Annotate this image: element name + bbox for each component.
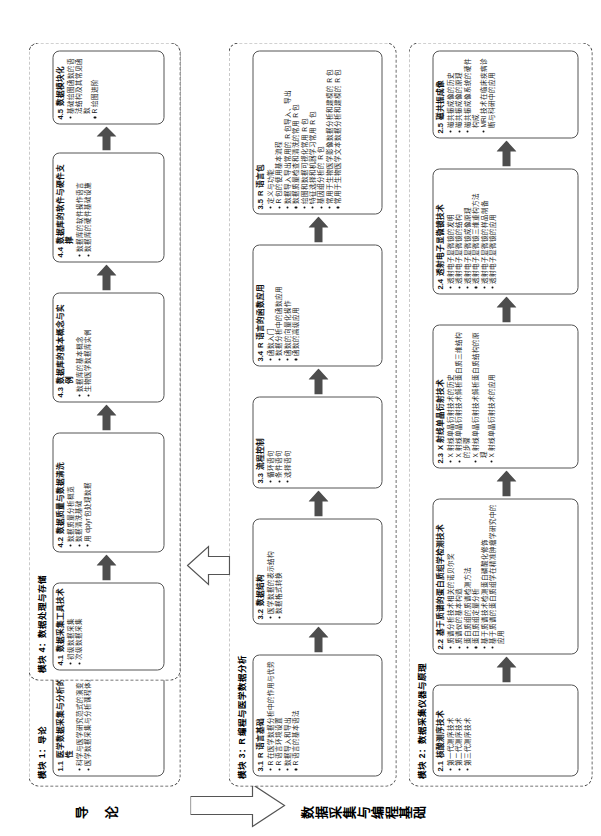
- node-2-5[interactable]: 2.5 磁共振成像 磁共振成像的历史 磁共振成像的原理 磁共振成像系统的硬件构成…: [432, 50, 578, 138]
- list-item: X 射线单晶衍射技术的应用: [487, 329, 495, 463]
- node-2-3-bullets: X 射线单晶衍射技术的历史 X 射线单晶衍射技术解析蛋白质三维结构的步骤 X 射…: [446, 329, 495, 463]
- node-3-5[interactable]: 3.5 R 语言包 定义与功能 R 包的使用基本流程 数据导入导出常用的 R 包…: [252, 50, 382, 214]
- arrow-4-3-to-4-4: [96, 264, 116, 290]
- node-3-3-number: 3.3: [256, 472, 265, 483]
- list-item: 基础绘图函数的语法结构及其常见函数: [66, 55, 90, 119]
- arrow-3-1-to-3-2: [308, 626, 328, 652]
- list-item: 循环语句: [266, 401, 274, 483]
- list-item: 数据质量检查和清洗的常用 R 包: [291, 55, 299, 209]
- node-2-5-head: 2.5 磁共振成像: [436, 55, 445, 133]
- list-item: 数据库的基本概念: [75, 297, 83, 397]
- list-item: 第二代测序技术: [454, 689, 462, 771]
- node-3-2-title: 数据结构: [256, 523, 265, 605]
- node-3-1-title: R 语言基础: [256, 659, 265, 757]
- node-3-3-title: 流程控制: [256, 401, 265, 469]
- node-4-4-number: 4.4: [56, 246, 65, 257]
- node-2-1-number: 2.1: [436, 760, 445, 771]
- list-item: 透射电子显微镜的样品制备: [480, 173, 488, 289]
- node-2-5-title: 磁共振成像: [436, 55, 445, 119]
- list-item: 生物医学数据库实例: [83, 297, 91, 397]
- list-item: 用 dplyr 包处理数据: [83, 437, 91, 547]
- list-item: 次级数据采集: [74, 587, 82, 665]
- list-item: 函数入门: [266, 249, 274, 361]
- list-item: 磁共振成像系统的硬件构成: [463, 55, 479, 133]
- module-2-title: 模块 2：数据采集仪器与原理: [414, 663, 426, 778]
- arrow-3-3-to-3-4: [308, 368, 328, 394]
- list-item: 磁共振成像的历史: [446, 55, 454, 133]
- node-4-2[interactable]: 4.2 数据质量与数据清洗 数据质量分析概览 数据清洗基础 用 dplyr 包处…: [52, 432, 164, 552]
- node-4-5[interactable]: 4.5 数据模块化 基础绘图函数的语法结构及其常见函数 R 绘图进阶: [52, 50, 164, 124]
- list-item: 透射电子显微镜的应用: [488, 173, 496, 289]
- node-3-4-title: R 语言的函数应用: [256, 249, 265, 347]
- list-item: 数据分析中的函数应用: [274, 249, 282, 361]
- list-item: MRI 技术在临床疾病诊断与科研中的应用: [479, 55, 495, 133]
- arrow-4-4-to-4-5: [96, 126, 116, 150]
- list-item: 数据清洗基础: [74, 437, 82, 547]
- node-3-4-bullets: 函数入门 数据分析中的函数应用 函数的向量化操作 函数的高级应用: [266, 249, 299, 361]
- node-4-4[interactable]: 4.4 数据库的软件与硬件支撑 数据库的软件操作语言 数据库的硬件基础设施: [52, 152, 164, 262]
- list-item: 函数的向量化操作: [283, 249, 291, 361]
- node-3-1[interactable]: 3.1 R 语言基础 R 在医学数据分析中的作用与优势 R 语言环境设置 数据导…: [252, 654, 382, 776]
- list-item: 质谱仪的基本构造: [454, 503, 462, 649]
- node-3-2[interactable]: 3.2 数据结构 医学数据的表示结构 数据格式转换: [252, 518, 382, 624]
- list-item: 第三代测序技术: [463, 689, 471, 771]
- node-2-3[interactable]: 2.3 X 射线单晶衍射技术 X 射线单晶衍射技术的历史 X 射线单晶衍射技术解…: [432, 324, 578, 468]
- arrow-3-2-to-3-3: [308, 490, 328, 516]
- list-item: R 绘图进阶: [90, 55, 98, 119]
- list-item: 透射电子显微镜的发明: [446, 173, 454, 289]
- band-label-data: 数据采集与编程基础: [300, 803, 426, 822]
- node-2-1-title: 核酸测序技术: [436, 689, 445, 757]
- node-3-3-head: 3.3 流程控制: [256, 401, 265, 483]
- node-4-3-title: 数据库的基本概念与实例: [56, 297, 74, 383]
- node-4-3-bullets: 数据库的基本概念 生物医学数据库实例: [75, 297, 91, 397]
- arrow-4-2-to-4-3: [96, 404, 116, 430]
- node-2-4[interactable]: 2.4 透射电子显微镜技术 透射电子显微镜的发明 透射电子显微镜的结构 透射电子…: [432, 168, 578, 294]
- arrow-2-4-to-2-5: [496, 140, 516, 166]
- node-3-4-head: 3.4 R 语言的函数应用: [256, 249, 265, 361]
- node-4-1-title: 数据采集工具技术: [56, 587, 65, 651]
- list-item: 数据质量分析概览: [66, 437, 74, 547]
- node-2-2-head: 2.2 基于质谱的蛋白质组学检测技术: [436, 503, 445, 649]
- arrow-3-4-to-3-5: [308, 216, 328, 242]
- list-item: 蛋白质组的质谱检测方法: [463, 503, 471, 649]
- band-connector-arrow: [190, 782, 290, 828]
- list-item: 数据库的硬件基础设施: [83, 157, 91, 257]
- node-4-1-number: 4.1: [56, 654, 65, 665]
- node-2-4-number: 2.4: [436, 278, 445, 289]
- list-item: 透射电子显微镜三维重构方法: [471, 173, 479, 289]
- list-item: R 语言环境设置: [274, 659, 282, 771]
- node-3-5-bullets: 定义与功能 R 包的使用基本流程 数据导入导出常用的 R 包导入、导出 数据质量…: [266, 55, 341, 209]
- list-item: 条件语句: [274, 401, 282, 483]
- node-3-5-title: R 语言包: [256, 55, 265, 195]
- node-3-4-number: 3.4: [256, 350, 265, 361]
- node-3-4[interactable]: 3.4 R 语言的函数应用 函数入门 数据分析中的函数应用 函数的向量化操作 函…: [252, 244, 382, 366]
- band-label-intro: 导 论: [74, 803, 118, 822]
- node-3-5-head: 3.5 R 语言包: [256, 55, 265, 209]
- node-1-1-number: 1.1: [56, 760, 65, 771]
- node-3-1-bullets: R 在医学数据分析中的作用与优势 R 语言环境设置 数据导入和导出 R 语言的基…: [266, 659, 299, 771]
- list-item: 医学数据的表示结构: [266, 523, 274, 619]
- node-2-1[interactable]: 2.1 核酸测序技术 第一代测序技术 第二代测序技术 第三代测序技术: [432, 684, 578, 776]
- node-2-3-title: X 射线单晶衍射技术: [436, 329, 445, 449]
- node-2-5-bullets: 磁共振成像的历史 磁共振成像的原理 磁共振成像系统的硬件构成 MRI 技术在临床…: [446, 55, 495, 133]
- list-item: 透射电子显微镜成像原理: [463, 173, 471, 289]
- node-3-2-bullets: 医学数据的表示结构 数据格式转换: [266, 523, 282, 619]
- list-item: 特征选择和机器学习常用 R 包: [308, 55, 316, 209]
- node-3-1-head: 3.1 R 语言基础: [256, 659, 265, 771]
- node-4-1[interactable]: 4.1 数据采集工具技术 初级数据采集 次级数据采集: [52, 582, 164, 670]
- node-4-5-title: 数据模块化: [56, 55, 65, 105]
- node-2-2[interactable]: 2.2 基于质谱的蛋白质组学检测技术 质谱分析技术相关的诺贝尔奖 质谱仪的基本构…: [432, 498, 578, 654]
- node-4-2-number: 4.2: [56, 536, 65, 547]
- node-4-2-head: 4.2 数据质量与数据清洗: [56, 437, 65, 547]
- list-item: 数据格式转换: [274, 523, 282, 619]
- list-item: 第一代测序技术: [446, 689, 454, 771]
- node-4-5-head: 4.5 数据模块化: [56, 55, 65, 119]
- list-item: 初级数据采集: [66, 587, 74, 665]
- node-2-4-title: 透射电子显微镜技术: [436, 173, 445, 275]
- node-2-4-bullets: 透射电子显微镜的发明 透射电子显微镜的结构 透射电子显微镜成像原理 透射电子显微…: [446, 173, 496, 289]
- node-4-4-head: 4.4 数据库的软件与硬件支撑: [56, 157, 74, 257]
- node-4-5-bullets: 基础绘图函数的语法结构及其常见函数 R 绘图进阶: [66, 55, 98, 119]
- node-2-2-bullets: 质谱分析技术相关的诺贝尔奖 质谱仪的基本构造 蛋白质组的质谱检测方法 蛋白质组定…: [446, 503, 504, 649]
- node-4-3[interactable]: 4.3 数据库的基本概念与实例 数据库的基本概念 生物医学数据库实例: [52, 292, 164, 402]
- node-3-3[interactable]: 3.3 流程控制 循环语句 条件语句 选择语句: [252, 396, 382, 488]
